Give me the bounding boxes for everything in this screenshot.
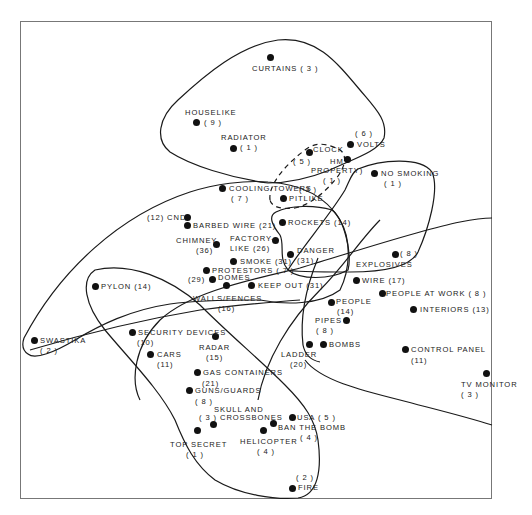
label-rockets: ROCKETS (14) (288, 218, 351, 227)
point-clock (306, 149, 313, 156)
label-domes: DOMES (218, 273, 250, 282)
label-no-smoking: NO SMOKING (381, 169, 439, 178)
point-gas-containers (194, 369, 201, 376)
label-radar-count: (15) (206, 353, 223, 362)
label-factory-like: LIKE (26) (230, 244, 270, 253)
label-radar: RADAR (199, 343, 230, 352)
label-chimney: CHIMNEY (176, 236, 217, 245)
cluster-diagram: CURTAINS ( 3 ) HOUSELIKE ( 9 ) RADIATOR … (0, 0, 532, 515)
point-wire (353, 277, 360, 284)
label-no-smoking-count: ( 1 ) (384, 179, 402, 188)
point-people (328, 299, 335, 306)
label-guns-count: ( 8 ) (195, 397, 213, 406)
label-ladder-count: (20) (290, 360, 307, 369)
label-pipes: PIPES (315, 316, 342, 325)
point-control-panel (402, 346, 409, 353)
label-houselike: HOUSELIKE (185, 108, 237, 117)
label-cooling-count: ( 7 ) (231, 194, 249, 203)
label-explosives: EXPLOSIVES (356, 260, 413, 269)
label-tv-count: ( 3 ) (461, 390, 479, 399)
label-curtains: CURTAINS ( 3 ) (252, 64, 318, 73)
label-skull-crossbones: ( 3 ) CROSSBONES (199, 413, 283, 422)
label-walls-count: (16) (218, 304, 235, 313)
point-top-secret (194, 427, 201, 434)
point-usa (289, 414, 296, 421)
point-pitlike (280, 195, 287, 202)
point-radiator (230, 145, 237, 152)
label-keep-out: KEEP OUT (31) (258, 281, 323, 290)
label-volts: VOLTS (357, 140, 386, 149)
label-hm-count: ( 1 ) (323, 176, 341, 185)
label-pylon: PYLON (14) (101, 282, 151, 291)
label-bombs: BOMBS (329, 340, 361, 349)
point-pipes (343, 317, 350, 324)
label-people-count: (14) (337, 307, 354, 316)
label-clock: CLOCK (313, 145, 344, 154)
point-smoke (230, 258, 237, 265)
label-top-secret: TOP SECRET (170, 440, 227, 449)
label-cars: CARS (157, 350, 182, 359)
label-people-at-work: PEOPLE AT WORK ( 8 ) (386, 289, 486, 298)
label-danger-count: (31) (297, 256, 314, 265)
label-clock-count: ( 5 ) (293, 157, 311, 166)
label-danger: DANGER (297, 246, 335, 255)
point-explosives (392, 251, 399, 258)
label-pitlike-count: ( 3 ) (299, 185, 317, 194)
point-volts (347, 141, 354, 148)
point-keep-out (248, 282, 255, 289)
point-people-at-work (379, 290, 386, 297)
point-rockets (279, 219, 286, 226)
label-smoke: SMOKE (31) (240, 257, 292, 266)
label-helicopter: HELICOPTER (240, 437, 298, 446)
label-swastika-count: ( 2 ) (40, 346, 58, 355)
point-domes (209, 276, 216, 283)
label-security-devices: SECURITY DEVICES (138, 328, 226, 337)
label-cnd: (12) CND (147, 213, 186, 222)
point-houselike (193, 119, 200, 126)
point-walls-fences (223, 282, 230, 289)
point-cooling-towers (219, 185, 226, 192)
label-chimney-count: (36) (196, 246, 213, 255)
label-usa: USA ( 5 ) (297, 413, 336, 422)
point-security-devices (129, 329, 136, 336)
label-top-count: ( 1 ) (186, 450, 204, 459)
point-protestors (203, 267, 210, 274)
point-no-smoking (371, 170, 378, 177)
point-barbed-wire (184, 222, 191, 229)
label-cars-count: (11) (157, 360, 174, 369)
point-swastika (31, 337, 38, 344)
point-helicopter (260, 427, 267, 434)
label-control-panel: CONTROL PANEL (411, 345, 486, 354)
label-swastika: SWASTIKA (40, 336, 86, 345)
label-houselike-count: ( 9 ) (204, 118, 222, 127)
label-radiator-count: ( 1 ) (240, 143, 258, 152)
point-guns-guards (186, 387, 193, 394)
label-guns-guards: GUNS/GUARDS (195, 386, 261, 395)
point-tv-monitor (483, 370, 490, 377)
label-interiors: INTERIORS (13) (420, 305, 490, 314)
label-security-count: (10) (137, 338, 154, 347)
label-fire-count: ( 2 ) (296, 473, 314, 482)
label-walls-fences: WALLS/FENCES (193, 294, 262, 303)
point-hm-property (344, 156, 351, 163)
point-pylon (92, 283, 99, 290)
label-ban-the-bomb: BAN THE BOMB (278, 423, 346, 432)
point-cars (147, 351, 154, 358)
label-gas-containers: GAS CONTAINERS (203, 368, 283, 377)
label-ban-count: ( 4 ) (300, 433, 318, 442)
point-bombs (320, 341, 327, 348)
label-explosives-count: ( 8 ) (400, 249, 418, 258)
label-hm-property: PROPERTY) (311, 166, 363, 175)
point-ladder (306, 341, 313, 348)
label-pipes-count: ( 8 ) (316, 326, 334, 335)
label-helicopter-count: ( 4 ) (257, 447, 275, 456)
label-hm: HM (330, 157, 344, 166)
point-fire (289, 485, 296, 492)
label-people: PEOPLE (336, 297, 372, 306)
label-factory: FACTORY- (230, 234, 275, 243)
label-barbed-wire: BARBED WIRE (21) (193, 221, 276, 230)
label-tv-monitor: TV MONITOR (461, 380, 518, 389)
label-ladder: LADDER (281, 350, 317, 359)
point-interiors (410, 306, 417, 313)
label-wire: WIRE (17) (362, 276, 406, 285)
